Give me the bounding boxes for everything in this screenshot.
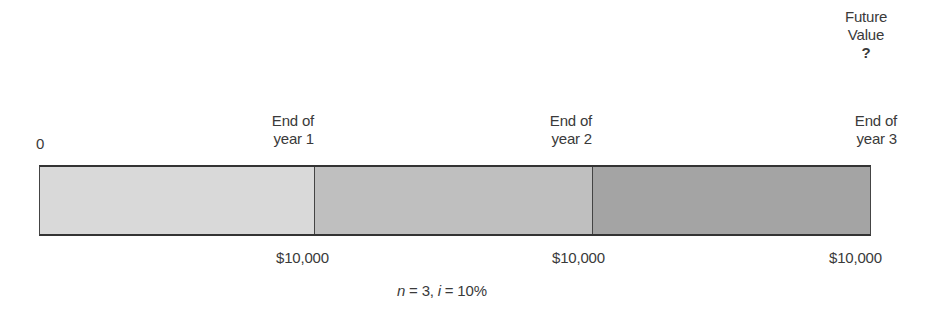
point-line2: year 1 bbox=[255, 130, 314, 148]
timeline-point-year-2: End of year 2 bbox=[533, 112, 592, 148]
parameters-caption: n = 3, i = 10% bbox=[397, 282, 487, 300]
point-line1: End of bbox=[533, 112, 592, 130]
point-line2: year 3 bbox=[838, 130, 897, 148]
point-line1: End of bbox=[838, 112, 897, 130]
i-value: = 10% bbox=[441, 282, 487, 299]
timeline-bar bbox=[39, 165, 871, 236]
future-label-line1: Future bbox=[836, 8, 896, 26]
point-line2: year 2 bbox=[533, 130, 592, 148]
segment-year-1 bbox=[40, 167, 314, 234]
future-label-line2: Value bbox=[836, 26, 896, 44]
payment-year-1: $10,000 bbox=[276, 249, 329, 267]
payment-year-3: $10,000 bbox=[829, 249, 882, 267]
segment-year-2 bbox=[314, 167, 592, 234]
question-mark: ? bbox=[836, 44, 896, 62]
segment-year-3 bbox=[592, 167, 870, 234]
n-value: = 3, bbox=[405, 282, 438, 299]
point-line1: End of bbox=[255, 112, 314, 130]
future-value-label: Future Value ? bbox=[836, 8, 896, 62]
payment-year-2: $10,000 bbox=[552, 249, 605, 267]
timeline-point-year-1: End of year 1 bbox=[255, 112, 314, 148]
timeline-point-year-3: End of year 3 bbox=[838, 112, 897, 148]
timeline-point-0: 0 bbox=[36, 135, 44, 153]
n-variable: n bbox=[397, 282, 405, 299]
